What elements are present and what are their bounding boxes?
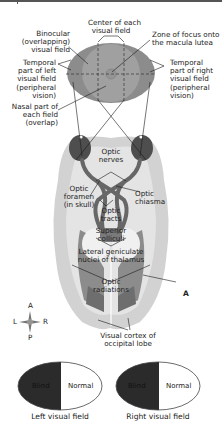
label-optic-tracts: Optic tracts: [98, 207, 124, 223]
label-optic-radiations: Optic radiations: [91, 278, 131, 294]
label-optic-foramen: Optic foramen (in skull): [62, 185, 96, 210]
compass-anterior: A: [28, 302, 33, 310]
left-field-blind-label: Blind: [32, 382, 50, 390]
right-visual-field-caption: Right visual field: [116, 412, 200, 421]
label-visual-cortex: Visual cortex of occipital lobe: [100, 332, 156, 348]
label-nasal-part: Nasal part of each field (overlap): [4, 103, 58, 128]
label-temporal-left: Temporal part of left visual field (peri…: [6, 59, 56, 100]
left-field-normal-label: Normal: [68, 382, 93, 390]
label-superior-colliculi: Superior colliculi: [93, 227, 129, 243]
right-field-normal-label: Normal: [166, 382, 191, 390]
label-center-of-field: Center of each visual field: [88, 19, 134, 35]
label-temporal-right: Temporal part of right visual field (per…: [170, 59, 213, 100]
label-lesion-a: A: [183, 290, 189, 298]
compass-posterior: P: [28, 334, 32, 342]
label-zone-of-focus: Zone of focus onto the macula lutea: [152, 31, 219, 47]
compass-right: R: [43, 318, 48, 326]
label-lateral-geniculate: Lateral geniculate nuclei of thalamus: [76, 248, 146, 264]
label-optic-chiasma: Optic chiasma: [135, 190, 165, 206]
right-field-blind-label: Blind: [128, 382, 146, 390]
compass-left: L: [13, 318, 17, 326]
compass-rose: [19, 311, 41, 333]
visual-field-graphic: [66, 43, 156, 103]
label-binocular-field: Binocular (overlapping) visual field: [14, 30, 70, 55]
left-visual-field-caption: Left visual field: [18, 412, 102, 421]
label-optic-nerves: Optic nerves: [96, 148, 126, 164]
